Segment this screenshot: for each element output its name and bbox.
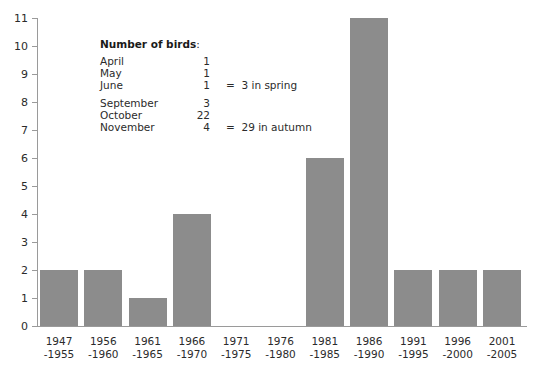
- legend-row: April1: [100, 55, 200, 67]
- x-tick-label-line: 1956: [81, 335, 125, 348]
- legend-month-label: May: [100, 67, 186, 79]
- x-tick-label-line: 1986: [347, 335, 391, 348]
- legend-month-label: April: [100, 55, 186, 67]
- y-tick-mark: [32, 242, 37, 243]
- bar: [40, 270, 78, 326]
- x-tick-label-line: -1960: [81, 348, 125, 361]
- x-tick-label: 1961-1965: [126, 335, 170, 361]
- legend-count-value: 3: [186, 97, 210, 109]
- y-tick-label: 5: [0, 181, 28, 192]
- y-tick-label: 6: [0, 153, 28, 164]
- x-tick-label-line: 1961: [126, 335, 170, 348]
- x-tick-label-line: -1970: [170, 348, 214, 361]
- y-tick-label: 0: [0, 321, 28, 332]
- bar: [483, 270, 521, 326]
- y-tick-mark: [32, 270, 37, 271]
- bar: [173, 214, 211, 326]
- legend-row: October22: [100, 109, 200, 121]
- x-tick-label-line: 1966: [170, 335, 214, 348]
- legend-row: November4= 29 in autumn: [100, 121, 200, 133]
- y-tick-label: 1: [0, 293, 28, 304]
- y-tick-mark: [32, 18, 37, 19]
- x-tick-label-line: -1985: [303, 348, 347, 361]
- y-tick-label: 2: [0, 265, 28, 276]
- y-tick-mark: [32, 158, 37, 159]
- y-tick-mark: [32, 130, 37, 131]
- x-tick-label-line: -1955: [37, 348, 81, 361]
- y-tick-label: 11: [0, 13, 28, 24]
- x-tick-label: 1976-1980: [259, 335, 303, 361]
- x-tick-label-line: 1971: [214, 335, 258, 348]
- x-tick-label-line: 1981: [303, 335, 347, 348]
- legend-row: June1= 3 in spring: [100, 79, 200, 91]
- legend-count-value: 22: [186, 109, 210, 121]
- x-tick-label-line: -2005: [480, 348, 524, 361]
- legend-month-label: November: [100, 121, 186, 133]
- x-tick-label-line: -1975: [214, 348, 258, 361]
- x-tick-label: 2001-2005: [480, 335, 524, 361]
- legend-count-value: 1: [186, 55, 210, 67]
- y-tick-label: 9: [0, 69, 28, 80]
- y-tick-mark: [32, 298, 37, 299]
- y-tick-mark: [32, 102, 37, 103]
- legend-rows: April1May1June1= 3 in springSeptember3Oc…: [100, 55, 200, 133]
- bar: [439, 270, 477, 326]
- y-tick-label: 3: [0, 237, 28, 248]
- y-axis-line: [37, 18, 38, 326]
- legend-count-value: 1: [186, 79, 210, 91]
- x-tick-label-line: -2000: [436, 348, 480, 361]
- chart-page: 11109876543210 1947-19551956-19601961-19…: [0, 0, 534, 377]
- y-tick-mark: [32, 326, 37, 327]
- bar: [129, 298, 167, 326]
- x-tick-label-line: -1995: [391, 348, 435, 361]
- x-tick-label: 1991-1995: [391, 335, 435, 361]
- x-tick-label-line: -1965: [126, 348, 170, 361]
- y-tick-mark: [32, 186, 37, 187]
- x-tick-label: 1971-1975: [214, 335, 258, 361]
- x-axis-line: [37, 326, 527, 327]
- bar: [306, 158, 344, 326]
- y-tick-label: 10: [0, 41, 28, 52]
- bar: [84, 270, 122, 326]
- x-tick-label-line: 2001: [480, 335, 524, 348]
- x-tick-label: 1966-1970: [170, 335, 214, 361]
- legend-month-label: September: [100, 97, 186, 109]
- x-tick-label-line: 1976: [259, 335, 303, 348]
- legend-month-label: October: [100, 109, 186, 121]
- x-tick-label-line: 1947: [37, 335, 81, 348]
- y-tick-mark: [32, 214, 37, 215]
- legend-row: May1: [100, 67, 200, 79]
- y-tick-mark: [32, 46, 37, 47]
- legend-count-value: 1: [186, 67, 210, 79]
- legend-title-text: Number of birds: [100, 38, 196, 50]
- legend-count-value: 4: [186, 121, 210, 133]
- x-tick-label-line: -1980: [259, 348, 303, 361]
- bar: [350, 18, 388, 326]
- legend: Number of birds: April1May1June1= 3 in s…: [100, 38, 200, 133]
- x-tick-label: 1986-1990: [347, 335, 391, 361]
- legend-sum-note: = 29 in autumn: [226, 121, 312, 133]
- legend-row: September3: [100, 97, 200, 109]
- x-tick-label: 1981-1985: [303, 335, 347, 361]
- y-tick-label: 7: [0, 125, 28, 136]
- y-tick-mark: [32, 74, 37, 75]
- x-tick-label-line: 1991: [391, 335, 435, 348]
- y-tick-label: 4: [0, 209, 28, 220]
- x-tick-label: 1956-1960: [81, 335, 125, 361]
- bar: [394, 270, 432, 326]
- x-tick-label-line: -1990: [347, 348, 391, 361]
- legend-month-label: June: [100, 79, 186, 91]
- legend-title-colon: :: [196, 38, 200, 50]
- y-tick-label: 8: [0, 97, 28, 108]
- legend-sum-note: = 3 in spring: [226, 79, 297, 91]
- legend-title: Number of birds:: [100, 38, 200, 50]
- x-tick-label-line: 1996: [436, 335, 480, 348]
- bar-chart: 11109876543210 1947-19551956-19601961-19…: [0, 0, 534, 377]
- x-tick-label: 1996-2000: [436, 335, 480, 361]
- x-tick-label: 1947-1955: [37, 335, 81, 361]
